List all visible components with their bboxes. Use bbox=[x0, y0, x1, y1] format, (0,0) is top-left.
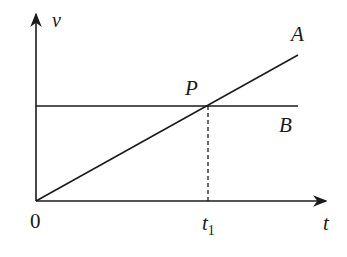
origin-label: 0 bbox=[30, 209, 41, 233]
t1-label-subscript: 1 bbox=[208, 223, 215, 238]
vt-diagram: v t 0 A B P t1 bbox=[0, 0, 347, 257]
v-axis-label: v bbox=[52, 9, 61, 31]
t1-label: t1 bbox=[202, 211, 215, 238]
line-a bbox=[36, 55, 298, 201]
line-b-label: B bbox=[279, 113, 292, 137]
line-a-label: A bbox=[289, 22, 304, 46]
intersection-p-label: P bbox=[184, 76, 198, 100]
t-axis-label: t bbox=[323, 211, 330, 235]
